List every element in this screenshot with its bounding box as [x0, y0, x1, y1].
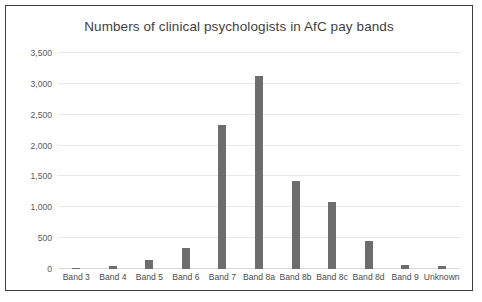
x-axis-tick-label: Band 8d: [350, 272, 387, 282]
bar[interactable]: [218, 125, 226, 269]
bar[interactable]: [72, 268, 80, 269]
bar[interactable]: [182, 248, 190, 269]
x-axis-tick-label: Band 8a: [241, 272, 278, 282]
bar-slot: [423, 53, 460, 269]
x-axis: Band 3Band 4Band 5Band 6Band 7Band 8aBan…: [58, 272, 460, 288]
bar-slot: [314, 53, 351, 269]
plot-area: [58, 53, 460, 269]
x-axis-tick-label: Band 8c: [314, 272, 351, 282]
bar[interactable]: [145, 260, 153, 269]
bar-slot: [168, 53, 205, 269]
y-axis-tick-label: 2,000: [30, 141, 52, 151]
bar[interactable]: [109, 266, 117, 269]
y-axis-tick-label: 500: [38, 233, 52, 243]
bar-series: [58, 53, 460, 269]
x-axis-tick-label: Unknown: [423, 272, 460, 282]
bar[interactable]: [328, 202, 336, 269]
bar[interactable]: [401, 265, 409, 269]
x-axis-tick-label: Band 9: [387, 272, 424, 282]
bar[interactable]: [255, 76, 263, 269]
y-axis: 05001,0001,5002,0002,5003,0003,500: [6, 53, 52, 269]
bar-slot: [277, 53, 314, 269]
bar[interactable]: [365, 241, 373, 269]
bar[interactable]: [438, 266, 446, 269]
bar[interactable]: [292, 181, 300, 269]
y-axis-tick-label: 1,500: [30, 171, 52, 181]
bar-slot: [95, 53, 132, 269]
x-axis-tick-label: Band 8b: [277, 272, 314, 282]
bar-slot: [204, 53, 241, 269]
y-axis-tick-label: 1,000: [30, 202, 52, 212]
x-axis-tick-label: Band 5: [131, 272, 168, 282]
bar-slot: [350, 53, 387, 269]
y-axis-tick-label: 3,500: [30, 48, 52, 58]
bar-slot: [387, 53, 424, 269]
bar-slot: [58, 53, 95, 269]
bar-slot: [241, 53, 278, 269]
x-axis-tick-label: Band 7: [204, 272, 241, 282]
bar-slot: [131, 53, 168, 269]
x-axis-tick-label: Band 3: [58, 272, 95, 282]
chart-frame: Numbers of clinical psychologists in AfC…: [5, 5, 473, 291]
y-axis-tick-label: 3,000: [30, 79, 52, 89]
chart-title: Numbers of clinical psychologists in AfC…: [6, 19, 472, 34]
y-axis-tick-label: 0: [47, 264, 52, 274]
x-axis-tick-label: Band 4: [95, 272, 132, 282]
x-axis-tick-label: Band 6: [168, 272, 205, 282]
y-axis-tick-label: 2,500: [30, 110, 52, 120]
